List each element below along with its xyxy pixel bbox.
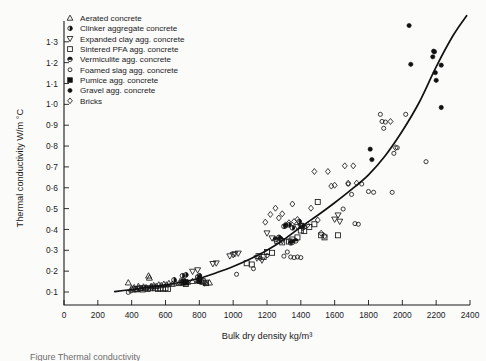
x-tick-label: 1000	[224, 310, 243, 320]
chart-legend: Aerated concreteClinker aggregate concre…	[67, 14, 185, 106]
legend-label: Vermiculite agg. concrete	[80, 55, 171, 64]
x-tick-label: 600	[159, 310, 173, 320]
y-tick-label: 1·3	[46, 37, 58, 47]
y-tick-label: 0·2	[46, 266, 58, 276]
legend-marker-triangle-down-open-icon	[67, 36, 73, 41]
data-series-group	[125, 23, 443, 294]
x-tick-label: 200	[91, 310, 105, 320]
legend-marker-circle-filled-icon	[68, 88, 72, 92]
legend-label: Gravel agg. concrete	[80, 86, 156, 95]
thermal-conductivity-scatter-chart: 0200400600800100012001400160018002000220…	[0, 0, 486, 361]
y-tick-label: 0·4	[46, 225, 58, 235]
legend-item-aerated-concrete[interactable]: Aerated concrete	[67, 14, 142, 23]
y-tick-label: 1·0	[46, 99, 58, 109]
axis-titles-group: Bulk dry density kg/m³Thermal conductivi…	[15, 109, 312, 341]
y-tick-label: 0·9	[46, 120, 58, 130]
legend-item-expanded-clay-agg-concrete[interactable]: Expanded clay agg. concrete	[67, 35, 185, 44]
y-tick-label: 0·1	[46, 287, 58, 297]
legend-label: Pumice agg. concrete	[80, 76, 159, 85]
x-tick-label: 800	[192, 310, 206, 320]
y-tick-label: 0·7	[46, 162, 58, 172]
legend-label: Aerated concrete	[80, 14, 142, 23]
x-tick-label: 2200	[427, 310, 446, 320]
series-gravel-agg-concrete	[368, 23, 443, 161]
legend-label: Foamed slag agg. concrete	[80, 66, 179, 75]
x-tick-label: 2400	[461, 310, 480, 320]
legend-marker-circle-half-icon	[68, 57, 72, 61]
series-bricks	[263, 118, 398, 239]
series-expanded-clay-agg-concrete	[179, 213, 342, 286]
x-tick-label: 1200	[258, 310, 277, 320]
legend-marker-diamond-open-icon	[68, 98, 73, 104]
legend-item-foamed-slag-agg-concrete[interactable]: Foamed slag agg. concrete	[68, 66, 179, 75]
figure-container: 0200400600800100012001400160018002000220…	[0, 0, 486, 361]
legend-item-bricks[interactable]: Bricks	[68, 97, 102, 106]
legend-marker-circle-small-open-icon	[68, 68, 72, 72]
legend-label: Sintered PFA agg. concrete	[80, 45, 179, 54]
y-tick-label: 0·5	[46, 204, 58, 214]
y-tick-label: 0·3	[46, 245, 58, 255]
x-tick-label: 2000	[393, 310, 412, 320]
x-tick-label: 1400	[292, 310, 311, 320]
legend-marker-circle-dot-icon	[68, 26, 72, 30]
legend-label: Bricks	[80, 97, 102, 106]
legend-marker-square-filled-icon	[68, 78, 73, 83]
legend-item-gravel-agg-concrete[interactable]: Gravel agg. concrete	[68, 86, 156, 95]
legend-marker-square-open-icon	[68, 47, 73, 52]
legend-item-vermiculite-agg-concrete[interactable]: Vermiculite agg. concrete	[68, 55, 172, 64]
x-axis-title: Bulk dry density kg/m³	[222, 331, 312, 341]
y-tick-label: 1·2	[46, 58, 58, 68]
legend-item-sintered-pfa-agg-concrete[interactable]: Sintered PFA agg. concrete	[68, 45, 179, 54]
legend-label: Expanded clay agg. concrete	[80, 35, 185, 44]
legend-marker-triangle-up-open-icon	[67, 15, 73, 20]
x-tick-label: 0	[62, 310, 67, 320]
y-axis-title: Thermal conductivity W/m °C	[15, 109, 25, 228]
x-tick-label: 400	[125, 310, 139, 320]
legend-item-clinker-aggregate-concrete[interactable]: Clinker aggregate concrete	[68, 24, 178, 33]
x-tick-label: 1600	[325, 310, 344, 320]
y-tick-label: 0·6	[46, 183, 58, 193]
legend-item-pumice-agg-concrete[interactable]: Pumice agg. concrete	[68, 76, 159, 85]
series-foamed-slag-agg-concrete	[126, 112, 428, 294]
series-sintered-pfa-agg-concrete	[131, 199, 341, 292]
y-tick-label: 0·8	[46, 141, 58, 151]
y-tick-label: 1·1	[46, 79, 58, 89]
figure-caption: Figure Thermal conductivity	[30, 352, 140, 361]
legend-label: Clinker aggregate concrete	[80, 24, 178, 33]
x-tick-label: 1800	[359, 310, 378, 320]
